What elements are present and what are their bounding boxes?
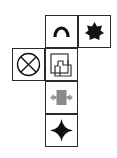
net-face-lower bbox=[45, 81, 78, 114]
star-burst-icon bbox=[79, 16, 110, 47]
arch-icon bbox=[46, 16, 77, 47]
circle-x-icon bbox=[13, 49, 44, 80]
net-face-bottom bbox=[45, 114, 78, 147]
net-face-left bbox=[12, 48, 45, 81]
four-point-star-icon bbox=[46, 115, 77, 146]
net-face-right bbox=[78, 15, 111, 48]
net-face-top bbox=[45, 15, 78, 48]
net-face-center bbox=[45, 48, 78, 81]
gray-block-double-arrow-icon bbox=[46, 82, 77, 113]
overlapping-squares-icon bbox=[46, 49, 77, 80]
